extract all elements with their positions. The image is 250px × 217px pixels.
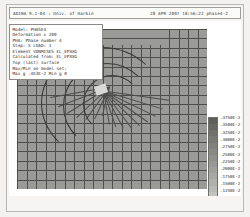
title-bar-left-text: ADINA 9.1-04 : Univ. of Harbin bbox=[10, 11, 94, 16]
legend-label: .3000E-2 bbox=[220, 136, 241, 143]
legend-label: .2000E-2 bbox=[220, 165, 241, 172]
title-bar-right-text: 28 APR 2007 18:56:22 phase4-2 bbox=[150, 11, 228, 16]
legend-label: .1000E-2 bbox=[220, 195, 241, 196]
mesh-grid-line bbox=[179, 29, 180, 189]
mesh-grid-line bbox=[17, 170, 207, 171]
legend-label: .3250E-2 bbox=[220, 129, 241, 136]
mesh-grid-line bbox=[17, 161, 207, 162]
legend-label: .1250E-2 bbox=[220, 187, 241, 194]
model-info-block: Model: PHASE4Deformation x 200PHA: Phase… bbox=[9, 24, 103, 80]
mesh-grid-line bbox=[169, 29, 170, 189]
mesh-interface-arc-3 bbox=[83, 75, 141, 133]
adina-postprocessor-window: ADINA 9.1-04 : Univ. of Harbin 28 APR 20… bbox=[0, 0, 250, 217]
legend-label: .3500E-2 bbox=[220, 121, 241, 128]
legend-label: .1500E-2 bbox=[220, 180, 241, 187]
legend-label: .2750E-2 bbox=[220, 143, 241, 150]
legend-label: .1750E-2 bbox=[220, 173, 241, 180]
mesh-grid-line bbox=[17, 180, 207, 181]
legend-band bbox=[209, 192, 217, 196]
contour-legend-labels: .3750E-2.3500E-2.3250E-2.3000E-2.2750E-2… bbox=[220, 114, 241, 196]
mesh-grid-line bbox=[198, 29, 199, 189]
title-bar: ADINA 9.1-04 : Univ. of Harbin 28 APR 20… bbox=[9, 7, 241, 19]
legend-label: .2500E-2 bbox=[220, 151, 241, 158]
legend-label: .2250E-2 bbox=[220, 158, 241, 165]
contour-legend-colorbar bbox=[208, 117, 218, 196]
model-info-line: Max g .4E3E-2 Min g 0 bbox=[13, 71, 101, 77]
legend-label: .3750E-2 bbox=[220, 114, 241, 121]
mesh-grid-line bbox=[188, 29, 189, 189]
